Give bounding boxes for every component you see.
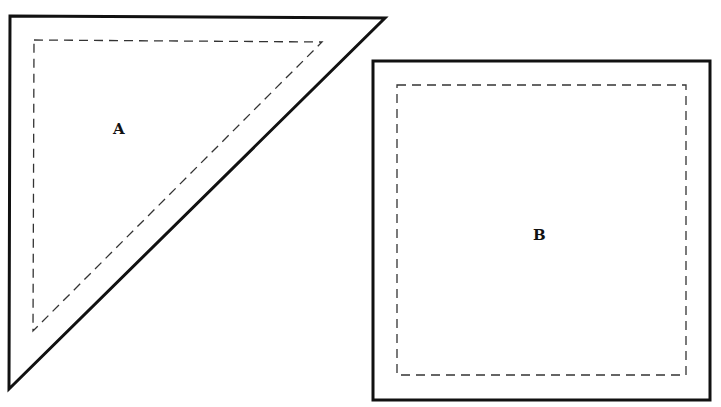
piece-b: B [373, 61, 710, 400]
piece-a-seam-line [33, 40, 322, 331]
piece-a-label: A [112, 120, 125, 138]
piece-a: A [9, 16, 385, 389]
piece-a-cutting-line [9, 16, 385, 389]
piece-b-label: B [533, 226, 546, 244]
template-diagram: A B [0, 0, 721, 407]
